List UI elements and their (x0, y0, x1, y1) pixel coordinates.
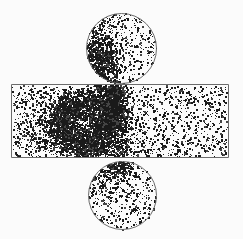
particle-scatter-plot (0, 0, 243, 239)
figure-container: Particle distribution scatter diagram Mo… (0, 0, 243, 239)
